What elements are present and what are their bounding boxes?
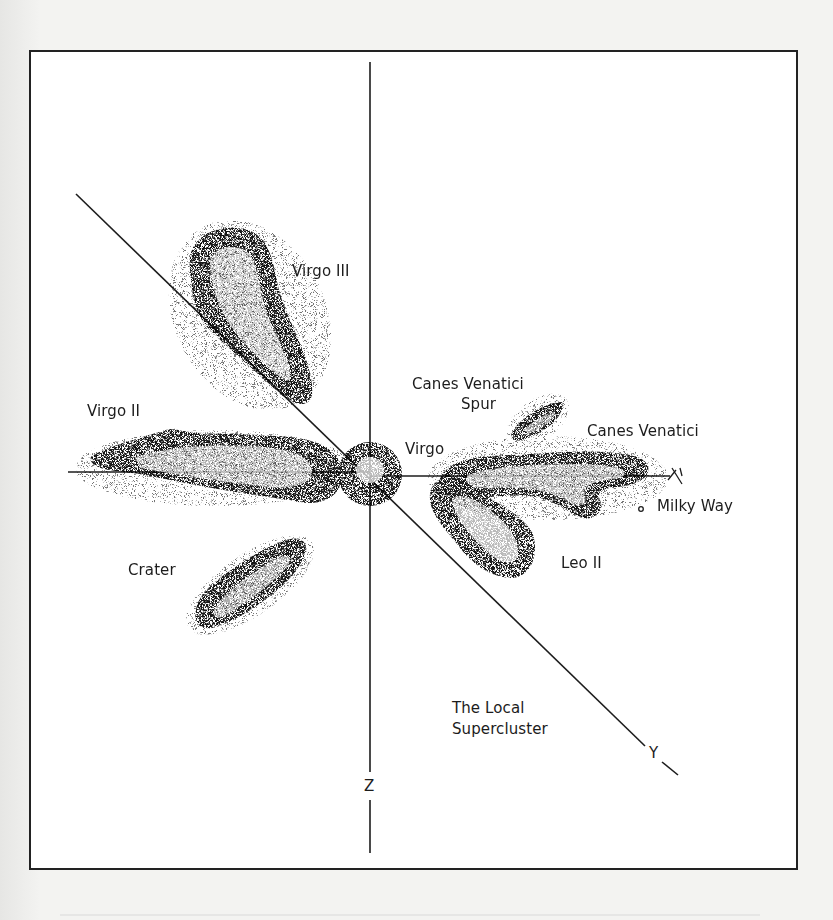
label-crater: Crater [128, 562, 176, 579]
label-canes-venatici: Canes Venatici [587, 423, 699, 440]
label-virgo-ii: Virgo II [87, 403, 140, 420]
label-supercluster-1: The Local [452, 700, 524, 717]
supercluster-diagram [0, 0, 833, 920]
label-supercluster-2: Supercluster [452, 721, 548, 738]
label-leo-ii: Leo II [561, 555, 602, 572]
label-cv-spur-2: Spur [461, 396, 496, 413]
label-virgo: Virgo [405, 441, 444, 458]
label-virgo-iii: Virgo III [292, 263, 350, 280]
caption-cutoff [0, 912, 833, 920]
axis-label-y: Y [649, 745, 658, 761]
label-cv-spur-1: Canes Venatici [412, 376, 524, 393]
label-milky-way: Milky Way [657, 498, 733, 515]
axis-label-z: Z [364, 778, 374, 794]
